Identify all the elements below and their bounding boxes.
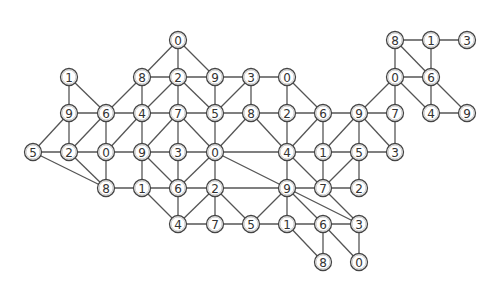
graph-node: 4 [279, 144, 296, 161]
node-label: 9 [138, 146, 146, 160]
node-label: 6 [102, 107, 110, 121]
graph-node: 2 [207, 180, 224, 197]
graph-node: 6 [315, 105, 332, 122]
node-label: 1 [319, 146, 327, 160]
node-label: 2 [283, 107, 291, 121]
graph-node: 0 [279, 69, 296, 86]
graph-node: 7 [315, 180, 332, 197]
node-layer: 0813182930069647582697495209304153816297… [25, 32, 476, 271]
graph-node: 1 [61, 69, 78, 86]
graph-node: 8 [315, 254, 332, 271]
graph-node: 0 [170, 32, 187, 49]
graph-diagram: 0813182930069647582697495209304153816297… [0, 0, 498, 282]
node-label: 1 [65, 71, 73, 85]
node-label: 5 [247, 218, 255, 232]
node-label: 8 [138, 71, 146, 85]
graph-node: 9 [207, 69, 224, 86]
node-label: 0 [174, 34, 182, 48]
node-label: 4 [283, 146, 291, 160]
graph-node: 4 [170, 216, 187, 233]
node-label: 3 [247, 71, 255, 85]
graph-node: 6 [170, 180, 187, 197]
graph-node: 3 [170, 144, 187, 161]
node-label: 3 [391, 146, 399, 160]
graph-node: 0 [387, 69, 404, 86]
node-label: 0 [102, 146, 110, 160]
graph-node: 9 [61, 105, 78, 122]
graph-node: 4 [423, 105, 440, 122]
node-label: 5 [29, 146, 37, 160]
graph-edge [215, 152, 287, 188]
node-label: 0 [391, 71, 399, 85]
graph-node: 4 [134, 105, 151, 122]
node-label: 8 [247, 107, 255, 121]
node-label: 2 [65, 146, 73, 160]
graph-node: 8 [243, 105, 260, 122]
node-label: 6 [427, 71, 435, 85]
node-label: 9 [463, 107, 471, 121]
node-label: 2 [211, 182, 219, 196]
graph-node: 2 [351, 180, 368, 197]
graph-node: 9 [134, 144, 151, 161]
graph-node: 6 [98, 105, 115, 122]
node-label: 0 [355, 256, 363, 270]
graph-node: 6 [315, 216, 332, 233]
node-label: 8 [102, 182, 110, 196]
graph-node: 1 [315, 144, 332, 161]
node-label: 9 [211, 71, 219, 85]
graph-node: 9 [279, 180, 296, 197]
graph-node: 5 [351, 144, 368, 161]
graph-node: 6 [423, 69, 440, 86]
node-label: 9 [65, 107, 73, 121]
node-label: 8 [391, 34, 399, 48]
graph-node: 7 [387, 105, 404, 122]
node-label: 3 [463, 34, 471, 48]
graph-node: 2 [170, 69, 187, 86]
graph-node: 0 [351, 254, 368, 271]
node-label: 3 [174, 146, 182, 160]
graph-node: 3 [243, 69, 260, 86]
graph-node: 1 [134, 180, 151, 197]
graph-node: 3 [351, 216, 368, 233]
graph-node: 0 [207, 144, 224, 161]
node-label: 9 [283, 182, 291, 196]
node-label: 0 [211, 146, 219, 160]
graph-node: 9 [459, 105, 476, 122]
graph-node: 0 [98, 144, 115, 161]
node-label: 6 [319, 218, 327, 232]
graph-node: 5 [25, 144, 42, 161]
node-label: 1 [283, 218, 291, 232]
node-label: 4 [174, 218, 182, 232]
graph-node: 1 [423, 32, 440, 49]
node-label: 5 [355, 146, 363, 160]
graph-node: 1 [279, 216, 296, 233]
node-label: 2 [355, 182, 363, 196]
graph-node: 9 [351, 105, 368, 122]
node-label: 6 [174, 182, 182, 196]
graph-node: 7 [170, 105, 187, 122]
node-label: 0 [283, 71, 291, 85]
node-label: 3 [355, 218, 363, 232]
node-label: 7 [319, 182, 327, 196]
node-label: 6 [319, 107, 327, 121]
node-label: 7 [174, 107, 182, 121]
node-label: 4 [427, 107, 435, 121]
node-label: 5 [211, 107, 219, 121]
graph-node: 5 [207, 105, 224, 122]
node-label: 2 [174, 71, 182, 85]
graph-node: 5 [243, 216, 260, 233]
graph-node: 8 [387, 32, 404, 49]
graph-node: 3 [459, 32, 476, 49]
graph-node: 8 [134, 69, 151, 86]
node-label: 4 [138, 107, 146, 121]
node-label: 7 [211, 218, 219, 232]
graph-node: 7 [207, 216, 224, 233]
node-label: 7 [391, 107, 399, 121]
graph-node: 2 [61, 144, 78, 161]
node-label: 9 [355, 107, 363, 121]
graph-node: 2 [279, 105, 296, 122]
node-label: 8 [319, 256, 327, 270]
graph-node: 8 [98, 180, 115, 197]
node-label: 1 [138, 182, 146, 196]
node-label: 1 [427, 34, 435, 48]
